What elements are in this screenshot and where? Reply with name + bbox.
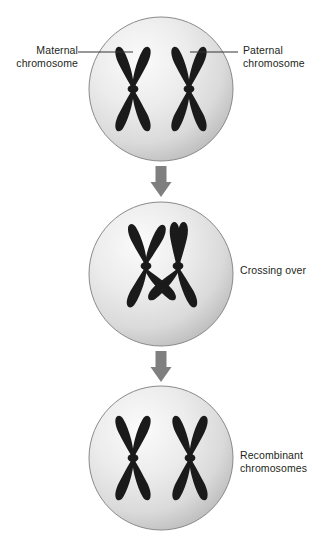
label-paternal-chromosome: Paternal chromosome (243, 44, 323, 70)
label-recombinant-chromosomes: Recombinant chromosomes (240, 449, 323, 475)
cell-membrane-bottom (89, 386, 233, 530)
arrow-middle-to-bottom (151, 351, 172, 382)
label-maternal-chromosome: Maternal chromosome (0, 44, 78, 70)
cell-top (89, 17, 233, 161)
label-crossing-over: Crossing over (240, 264, 323, 277)
cell-membrane-middle (89, 202, 233, 346)
cell-middle (89, 202, 233, 346)
arrow-top-to-middle (151, 166, 172, 197)
cell-bottom (89, 386, 233, 530)
cell-membrane-top (89, 17, 233, 161)
